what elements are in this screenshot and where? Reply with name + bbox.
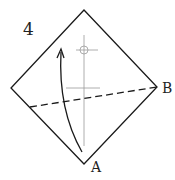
fold-arrow bbox=[61, 52, 82, 152]
point-label-b: B bbox=[162, 80, 172, 96]
point-label-a: A bbox=[91, 159, 101, 175]
origami-diagram: 4 A B bbox=[0, 0, 175, 180]
step-number: 4 bbox=[23, 19, 34, 39]
valley-fold-line bbox=[30, 87, 157, 107]
